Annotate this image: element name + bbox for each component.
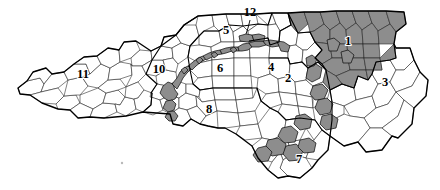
district-label-5: 5 bbox=[223, 23, 229, 37]
district-label-8: 8 bbox=[206, 102, 212, 116]
district-label-1: 1 bbox=[345, 34, 351, 48]
scan-speck bbox=[121, 162, 123, 164]
district-label-12: 12 bbox=[244, 5, 257, 19]
district-label-7: 7 bbox=[296, 152, 302, 166]
district-label-4: 4 bbox=[268, 60, 275, 74]
district-label-10: 10 bbox=[153, 62, 166, 76]
map-container: 1 2 3 4 5 6 7 8 10 11 12 bbox=[0, 0, 440, 190]
district-label-6: 6 bbox=[217, 61, 223, 75]
north-carolina-district-map: 1 2 3 4 5 6 7 8 10 11 12 bbox=[0, 0, 440, 190]
district-label-11: 11 bbox=[77, 67, 89, 81]
district-label-2: 2 bbox=[285, 71, 291, 85]
district-label-3: 3 bbox=[382, 75, 388, 89]
